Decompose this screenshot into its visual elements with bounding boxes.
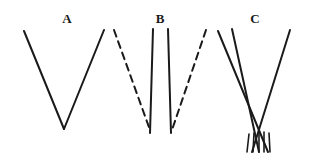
panel-label-c: C [243,12,267,25]
panel-c-hatch-2 [253,133,254,152]
panel-label-b: B [148,12,172,25]
illusion-figure: A B C [0,0,318,158]
panel-label-a: A [55,12,79,25]
panel-c-hatch-5 [269,133,270,152]
